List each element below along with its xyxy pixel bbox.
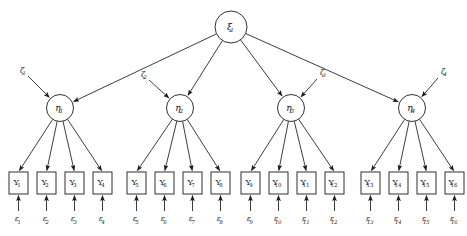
loading-eta2-to-Y6 [165,121,177,170]
label-eps11: ε11 [302,214,310,225]
loading-eta2-to-Y5 [137,119,172,171]
label-zeta3-subscript: 3 [323,72,327,78]
label-zeta2-subscript: 2 [143,74,147,80]
label-eta2-subscript: 2 [178,108,183,114]
label-zeta2: ζ2 [141,70,147,80]
loading-eta2-to-Y8 [187,119,219,170]
label-Y6-subscript: 6 [163,182,167,188]
label-Y2-subscript: 2 [45,182,48,188]
label-Y5-subscript: 5 [135,182,139,188]
disturbance-paths-layer [28,76,438,98]
label-eps4: ε4 [99,214,105,225]
disturbance-zeta3-to-eta3 [301,79,317,97]
loading-eta1-to-Y2 [47,121,57,170]
label-eps16-subscript: 16 [451,219,458,225]
label-eps2: ε2 [43,214,49,225]
label-eps13: ε13 [366,214,374,225]
loading-eta1-to-Y1 [19,119,52,170]
label-eps1-subscript: 1 [17,219,20,225]
label-Y13-subscript: 13 [366,182,373,188]
label-Y10-subscript: 10 [274,182,281,188]
label-eps9-subscript: 9 [249,219,253,225]
label-Y11-subscript: 11 [302,182,309,188]
label-Y1-subscript: 1 [17,182,20,188]
loading-eta3-to-Y9 [251,119,283,170]
sem-path-diagram: ξ1η1η2η3η4Y1Y2Y3Y4Y5Y6Y7Y8Y9Y10Y11Y12Y13… [0,0,467,236]
loading-eta3-to-Y12 [299,119,334,171]
loading-eta4-to-Y15 [415,121,426,170]
label-eta4-subscript: 4 [410,108,415,114]
label-eps14: ε14 [394,214,402,225]
label-Y12-subscript: 12 [330,182,337,188]
label-eps4-subscript: 4 [100,219,104,225]
label-eps11-subscript: 11 [303,219,310,225]
structural-paths-layer [74,34,399,102]
path-xi1-to-eta3 [241,40,283,96]
label-eps13-subscript: 13 [367,219,374,225]
label-eps7: ε7 [189,214,196,225]
label-xi1-subscript: 1 [230,27,234,33]
label-Y16-subscript: 16 [450,182,457,188]
label-eps16: ε16 [450,214,458,225]
label-zeta1-subscript: 1 [23,70,26,76]
label-eta3-subscript: 3 [290,108,294,114]
label-eps3: ε3 [71,214,78,225]
label-Y9-subscript: 9 [249,182,253,188]
label-eps12: ε12 [330,214,338,225]
label-Y14-subscript: 14 [394,182,401,188]
label-eps15-subscript: 15 [423,219,430,225]
label-eps12-subscript: 12 [331,219,338,225]
disturbance-zeta1-to-eta1 [28,76,49,97]
error-paths-layer [19,196,455,212]
label-eps8: ε8 [217,214,224,225]
label-Y7-subscript: 7 [191,182,195,188]
label-eps6-subscript: 6 [163,219,167,225]
label-eps10: ε10 [274,214,282,225]
disturbance-zeta4-to-eta4 [422,78,438,97]
loading-eta4-to-Y14 [399,121,409,170]
label-eps7-subscript: 7 [191,219,195,225]
label-eps5-subscript: 5 [135,219,138,225]
label-eps6: ε6 [161,214,168,225]
label-eps14-subscript: 14 [395,219,402,225]
label-zeta4-subscript: 4 [443,71,447,77]
label-eps10-subscript: 10 [275,219,282,225]
label-eps2-subscript: 2 [44,219,48,225]
loading-eta4-to-Y13 [371,119,404,170]
measurement-paths-layer [19,119,453,171]
label-Y4-subscript: 4 [101,182,105,188]
label-eps3-subscript: 3 [73,219,77,225]
loading-eta3-to-Y11 [294,121,306,170]
loading-eta3-to-Y10 [279,121,289,170]
label-eps15: ε15 [422,214,430,225]
loading-eta2-to-Y7 [183,121,193,170]
label-Y8-subscript: 8 [219,182,223,188]
disturbance-zeta2-to-eta2 [149,80,169,98]
label-Y3-subscript: 3 [73,182,77,188]
label-eps9: ε9 [247,214,254,225]
label-zeta4: ζ4 [441,67,447,77]
path-xi1-to-eta2 [188,41,222,96]
loading-eta1-to-Y3 [63,121,74,170]
label-eps5: ε5 [133,214,139,225]
path-xi1-to-eta1 [74,34,217,102]
label-Y15-subscript: 15 [422,182,429,188]
label-eta1-subscript: 1 [59,108,63,114]
nodes-layer [9,11,464,194]
diagram-canvas: ξ1η1η2η3η4Y1Y2Y3Y4Y5Y6Y7Y8Y9Y10Y11Y12Y13… [0,0,467,236]
label-eps1: ε1 [15,214,21,225]
label-zeta1: ζ1 [20,66,26,76]
label-eps8-subscript: 8 [219,219,223,225]
